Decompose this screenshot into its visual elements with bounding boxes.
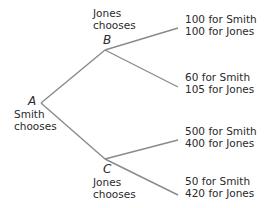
node-b-caption-line2: chooses <box>93 19 136 31</box>
node-b-caption-line1: Jones <box>93 7 136 19</box>
outcome-3: 500 for Smith 400 for Jones <box>185 125 257 149</box>
node-a-label: A <box>28 95 36 108</box>
outcome-1-jones: 100 for Jones <box>185 25 257 37</box>
node-b-caption: Jones chooses <box>93 7 136 31</box>
node-a-caption-line1: Smith <box>14 108 57 120</box>
outcome-3-smith: 500 for Smith <box>185 125 257 137</box>
outcome-1: 100 for Smith 100 for Jones <box>185 13 257 37</box>
outcome-4-smith: 50 for Smith <box>185 175 254 187</box>
node-a-caption: Smith chooses <box>14 108 57 132</box>
outcome-2: 60 for Smith 105 for Jones <box>185 71 254 95</box>
node-c-caption: Jones chooses <box>93 176 136 200</box>
outcome-2-jones: 105 for Jones <box>185 83 254 95</box>
node-a-caption-line2: chooses <box>14 120 57 132</box>
node-c-caption-line2: chooses <box>93 188 136 200</box>
edge-b-outcome-2 <box>105 50 178 87</box>
node-c-caption-line1: Jones <box>93 176 136 188</box>
edge-b-outcome-1 <box>105 28 178 50</box>
outcome-4-jones: 420 for Jones <box>185 187 254 199</box>
outcome-2-smith: 60 for Smith <box>185 71 254 83</box>
outcome-4: 50 for Smith 420 for Jones <box>185 175 254 199</box>
node-b-label: B <box>103 34 111 47</box>
node-c-label: C <box>103 163 111 176</box>
outcome-1-smith: 100 for Smith <box>185 13 257 25</box>
edge-c-outcome-3 <box>105 140 178 159</box>
outcome-3-jones: 400 for Jones <box>185 137 257 149</box>
edge-a-b <box>41 50 105 103</box>
